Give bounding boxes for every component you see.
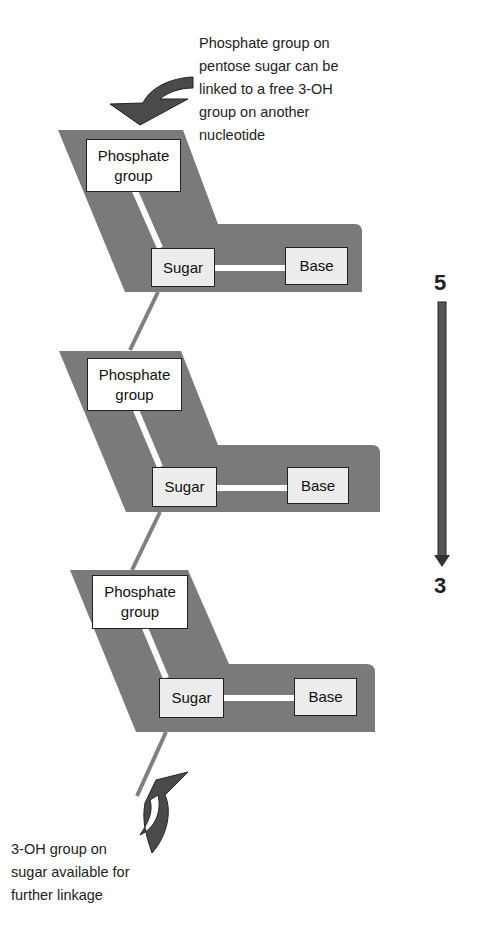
phosphate-group-box-3: Phosphate group — [92, 575, 188, 629]
direction-end-label: 3 — [434, 573, 446, 599]
phosphate-label: Phosphate — [99, 365, 171, 385]
phosphodiester-link-2 — [132, 512, 160, 570]
sugar-label: Sugar — [164, 477, 204, 497]
sugar-box-3: Sugar — [159, 678, 224, 718]
phosphate-group-box-2: Phosphate group — [87, 358, 182, 411]
phosphate-label: group — [115, 385, 153, 405]
sugar-box-2: Sugar — [152, 467, 217, 507]
base-label: Base — [301, 476, 335, 496]
annotation-top-line: linked to a free 3-OH — [199, 78, 338, 101]
curved-arrow-top-icon — [110, 77, 193, 125]
annotation-bottom-line: further linkage — [11, 884, 130, 907]
annotation-top: Phosphate group on pentose sugar can be … — [199, 32, 338, 147]
base-label: Base — [308, 687, 342, 707]
phosphodiester-link-1 — [130, 292, 158, 350]
curved-arrow-bottom-icon — [140, 772, 188, 853]
direction-start-label: 5 — [434, 270, 446, 296]
phosphate-label: Phosphate — [104, 582, 176, 602]
annotation-top-line: Phosphate group on — [199, 32, 338, 55]
phosphate-group-box-1: Phosphate group — [86, 139, 181, 192]
annotation-top-line: nucleotide — [199, 124, 338, 147]
phosphate-label: group — [114, 166, 152, 186]
annotation-bottom-line: 3-OH group on — [11, 838, 130, 861]
annotation-top-line: pentose sugar can be — [199, 55, 338, 78]
direction-arrow-head-icon — [434, 555, 450, 567]
annotation-top-line: group on another — [199, 101, 338, 124]
base-label: Base — [299, 256, 333, 276]
sugar-box-1: Sugar — [151, 248, 215, 287]
annotation-bottom-line: sugar available for — [11, 861, 130, 884]
direction-arrow-shaft — [438, 302, 446, 557]
base-box-2: Base — [287, 467, 349, 504]
base-box-1: Base — [285, 247, 348, 285]
annotation-bottom: 3-OH group on sugar available for furthe… — [11, 838, 130, 907]
phosphate-label: Phosphate — [98, 146, 170, 166]
base-box-3: Base — [294, 678, 357, 716]
sugar-label: Sugar — [171, 688, 211, 708]
phosphate-label: group — [121, 602, 159, 622]
sugar-label: Sugar — [163, 258, 203, 278]
